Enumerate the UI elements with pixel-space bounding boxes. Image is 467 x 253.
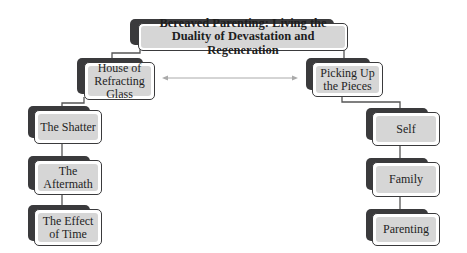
child-label: The Aftermath [38, 164, 98, 191]
child-label: The Shatter [38, 114, 98, 140]
child-label: The Effect of Time [38, 213, 98, 242]
branch-label: House of Refracting Glass [88, 66, 151, 96]
child-label: Self [376, 116, 436, 142]
child-label: Parenting [376, 217, 436, 242]
child-label: Family [376, 166, 436, 193]
bidirectional-arrow-icon [162, 76, 298, 81]
title-text: Bereaved Parenting: Living the Duality o… [141, 26, 345, 48]
branch-label: Picking Up the Pieces [316, 66, 379, 93]
